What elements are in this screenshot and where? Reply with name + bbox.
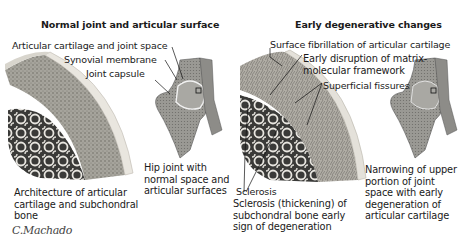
label-sclerosis: Sclerosis [236, 186, 276, 197]
artist-signature: C.Machado [12, 224, 72, 237]
caption-sclerosis: Sclerosis (thickening) of subchondral bo… [233, 198, 363, 233]
label-synovial-membrane: Synovial membrane [64, 54, 157, 65]
label-joint-capsule: Joint capsule [86, 68, 145, 79]
caption-normal-hip: Hip joint with normal space and articula… [144, 162, 236, 197]
panel-title-normal: Normal joint and articular surface [41, 19, 219, 30]
label-cartilage-space: Articular cartilage and joint space [12, 40, 167, 51]
caption-architecture: Architecture of articular cartilage and … [14, 187, 144, 222]
panel-title-degenerative: Early degenerative changes [295, 19, 442, 30]
label-matrix-disruption: Early disruption of matrix-molecular fra… [303, 53, 433, 76]
normal-hip-joint [156, 58, 222, 158]
caption-narrowing: Narrowing of upper portion of joint spac… [365, 164, 465, 222]
label-superficial-fissures: Superficial fissures [323, 80, 410, 91]
label-surface-fibrillation: Surface fibrillation of articular cartil… [270, 39, 450, 50]
